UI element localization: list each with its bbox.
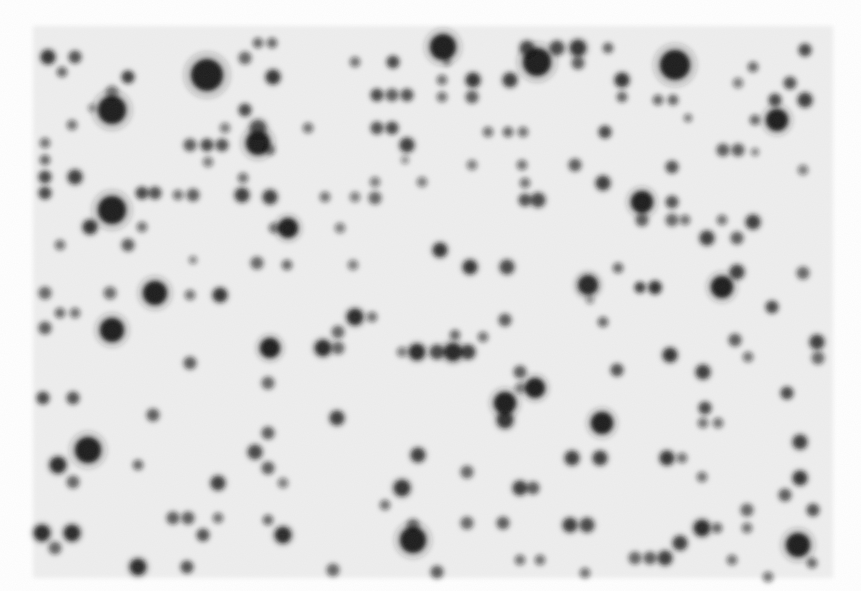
film-grain: [33, 26, 833, 578]
dot-blot-image: [0, 0, 861, 591]
microarray-membrane: [0, 0, 861, 591]
